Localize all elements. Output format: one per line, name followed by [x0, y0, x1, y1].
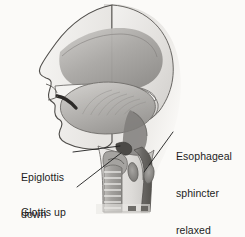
lower-neck-shading	[96, 204, 150, 214]
anatomy-figure: Epiglottis down Glottis up and closed Es…	[0, 0, 245, 237]
sagittal-head-neck-illustration	[0, 0, 245, 237]
